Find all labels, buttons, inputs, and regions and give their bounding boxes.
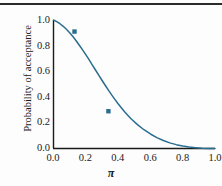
- x-tick-label: 1.0: [202, 152, 222, 163]
- data-series-line: [54, 20, 216, 149]
- figure-container: 1.0 0.8 0.6 0.4 0.2 0.0 0.0 0.2 0.4 0.6 …: [0, 0, 222, 186]
- x-tick-label: 0.0: [40, 152, 66, 163]
- x-axis-title: π: [0, 166, 222, 181]
- data-point-marker: [106, 109, 110, 113]
- y-axis-title: Probability of acceptance: [22, 9, 33, 149]
- data-point-markers: [72, 29, 110, 113]
- x-tick-label: 0.6: [137, 152, 163, 163]
- x-tick-label: 0.2: [72, 152, 98, 163]
- x-tick-label: 0.4: [105, 152, 131, 163]
- x-tick-label: 0.8: [170, 152, 196, 163]
- data-point-marker: [72, 29, 76, 33]
